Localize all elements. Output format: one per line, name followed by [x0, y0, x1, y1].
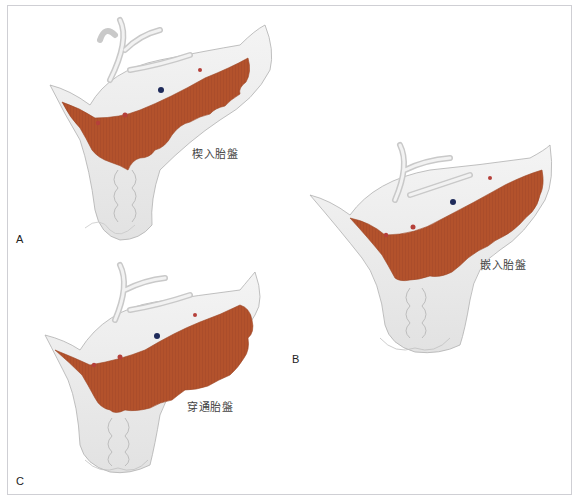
label-increta: 嵌入胎盤: [480, 256, 526, 272]
vessel-blue-dot: [158, 87, 164, 93]
vessel-blue-dot: [154, 333, 160, 339]
vessel-red-dot: [384, 233, 388, 237]
panel-c: 穿通胎盤: [40, 260, 290, 480]
vessel-blue-dot: [450, 199, 456, 205]
uterus-increta-illustration: [300, 140, 560, 360]
panel-b: 嵌入胎盤: [300, 140, 560, 360]
vessel-red-dot: [193, 313, 197, 317]
panel-letter-b: B: [292, 353, 299, 365]
vessel-red-dot: [96, 121, 100, 125]
uterus-percreta-illustration: [40, 260, 290, 480]
label-accreta: 楔入胎盤: [192, 145, 238, 161]
vessel-red-dot: [488, 176, 492, 180]
label-percreta: 穿通胎盤: [187, 398, 233, 414]
vessel-red-dot: [123, 113, 128, 118]
vessel-red-dot: [118, 355, 123, 360]
panel-letter-a: A: [16, 233, 23, 245]
vessel-red-dot: [198, 68, 202, 72]
panel-a: 楔入胎盤: [40, 10, 300, 250]
uterus-accreta-illustration: [40, 10, 300, 250]
panel-letter-c: C: [16, 475, 24, 487]
vessel-red-dot: [92, 363, 96, 367]
vessel-red-dot: [411, 225, 416, 230]
